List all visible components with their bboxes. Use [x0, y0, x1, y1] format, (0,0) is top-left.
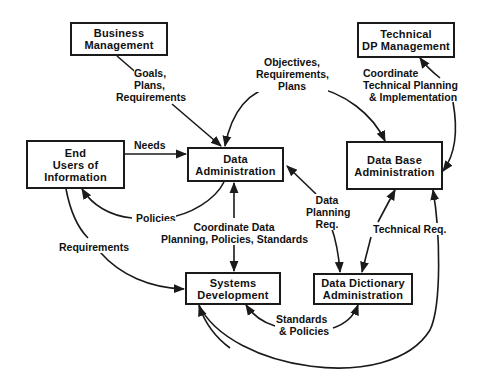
label-line: & Policies	[279, 325, 329, 337]
label-line: Technical Req.	[373, 223, 446, 235]
arrow-data-planning-down	[331, 226, 340, 272]
label-line: Req.	[306, 218, 348, 230]
arrow-requirements-a	[66, 189, 88, 238]
label-line: Requirements,	[256, 68, 328, 80]
node-label: Information	[44, 171, 107, 183]
edge-label-technical-req: Technical Req.	[373, 223, 446, 235]
label-line: Objectives,	[256, 56, 328, 68]
arrow-tech-req-down	[362, 237, 371, 272]
arrow-standards-left	[246, 305, 275, 326]
arrow-requirements-b	[100, 252, 184, 289]
arrow-objectives-left	[225, 85, 277, 146]
edge-label-coordinate-technical: Coordinate Technical Planning & Implemen…	[363, 67, 458, 103]
node-label: Administration	[354, 166, 434, 178]
node-label: Development	[197, 289, 268, 301]
arrow-tech-dp-down	[443, 102, 455, 171]
label-line: Standards	[276, 313, 329, 325]
node-label: Users of	[53, 159, 99, 171]
edge-label-requirements: Requirements	[59, 241, 129, 253]
label-line: & Implementation	[369, 91, 458, 103]
node-label: Systems	[210, 277, 257, 289]
label-line: Data	[306, 194, 348, 206]
node-end-users: End Users of Information	[26, 140, 125, 189]
edge-label-standards-policies: Standards & Policies	[276, 313, 329, 337]
label-line: Plans,	[134, 79, 186, 91]
label-line: Needs	[134, 139, 166, 151]
node-systems-development: Systems Development	[185, 272, 281, 305]
node-label: Business	[94, 27, 145, 39]
arrow-goals-2	[172, 104, 221, 146]
label-line: Planning, Policies, Standards	[161, 233, 307, 245]
label-line: Requirements	[59, 241, 129, 253]
label-line: Planning	[306, 206, 348, 218]
edge-label-coordinate-data: Coordinate Data Planning, Policies, Stan…	[161, 221, 307, 245]
node-label: End	[65, 147, 86, 159]
label-line: Coordinate	[363, 67, 458, 79]
label-line: Plans	[256, 80, 328, 92]
node-label: Management	[84, 39, 153, 51]
connector-arrows	[0, 0, 480, 390]
arrow-policies-b	[82, 189, 132, 218]
node-label: Technical	[380, 28, 432, 40]
node-label: DP Management	[362, 40, 450, 52]
label-line: Requirements	[116, 91, 186, 103]
node-label: Administration	[195, 165, 275, 177]
node-label: Data Dictionary	[321, 277, 405, 289]
arrow-standards-right	[333, 305, 358, 328]
node-data-base-administration: Data Base Administration	[346, 141, 443, 190]
node-label: Data	[223, 153, 248, 165]
node-label: Administration	[323, 289, 403, 301]
arrow-tech-req-up	[378, 190, 395, 222]
edge-label-data-planning: Data Planning Req.	[306, 194, 348, 230]
label-line: Coordinate Data	[161, 221, 307, 233]
node-data-administration: Data Administration	[187, 147, 284, 182]
edge-label-goals: Goals, Plans, Requirements	[134, 67, 186, 103]
node-data-dictionary-administration: Data Dictionary Administration	[313, 273, 413, 305]
label-line: Goals,	[134, 67, 186, 79]
edge-label-objectives: Objectives, Requirements, Plans	[256, 56, 328, 92]
edge-label-needs: Needs	[134, 139, 166, 151]
node-technical-dp-management: Technical DP Management	[357, 22, 455, 58]
label-line: Technical Planning	[363, 79, 458, 91]
node-business-management: Business Management	[70, 22, 168, 56]
node-label: Data Base	[367, 154, 422, 166]
data-administration-diagram: Business Management Technical DP Managem…	[0, 0, 480, 390]
arrow-data-planning-up	[287, 166, 316, 194]
